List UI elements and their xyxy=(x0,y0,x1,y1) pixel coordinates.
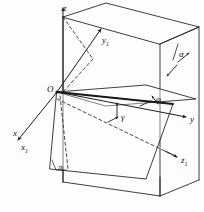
point-label-origin: O xyxy=(47,85,54,94)
angle-alpha-marks xyxy=(167,44,189,76)
inclined-plane-pi xyxy=(50,92,173,179)
axis-x-line xyxy=(18,92,57,140)
axis-label-y1: y1 xyxy=(102,36,109,47)
axis-label-z: z xyxy=(63,4,67,13)
axis-label-x: x xyxy=(13,129,17,138)
axis-label-y: y xyxy=(190,115,194,124)
axis-y1-line xyxy=(57,29,101,92)
geometry-figure: z y1 α O φ y γ x x1 z1 π xyxy=(0,0,204,212)
angle-label-alpha: α xyxy=(179,50,184,59)
axis-label-x1: x1 xyxy=(21,143,28,154)
box-bottom-edges xyxy=(63,177,199,196)
geometry-canvas xyxy=(0,0,204,212)
box-top-face xyxy=(63,3,199,44)
axis-label-z1: z1 xyxy=(181,156,188,167)
box-right-face-edge xyxy=(160,27,199,44)
plane-label-pi: π xyxy=(58,163,63,172)
angle-label-gamma: γ xyxy=(121,113,125,122)
origin-point-marker xyxy=(55,90,58,93)
angle-label-phi: φ xyxy=(156,95,161,104)
